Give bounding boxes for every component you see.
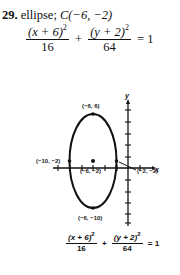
left-co-vertex-point xyxy=(68,159,72,163)
bottom-vertex-point xyxy=(91,206,95,210)
bottom-vertex-label: (−6, −10) xyxy=(78,215,102,221)
center-label-graph: (−6, −2) xyxy=(80,168,101,174)
right-co-vertex-label: (−2, −2) xyxy=(137,168,158,174)
y-axis-arrow-icon xyxy=(126,99,130,104)
x-term-numerator-bottom: (x + 6) xyxy=(68,233,91,242)
x-term-fraction-bottom: (x + 6)2 16 xyxy=(66,233,97,254)
y-term-denominator-bottom: 64 xyxy=(112,244,143,254)
top-vertex-label: (−6, 6) xyxy=(82,103,100,109)
x-term-denominator-bottom: 16 xyxy=(66,244,97,254)
top-vertex-point xyxy=(91,112,95,116)
plus-sign-bottom: + xyxy=(102,239,107,248)
center-point xyxy=(91,159,95,163)
right-co-vertex-point xyxy=(115,159,119,163)
y-term-numerator-bottom: (y + 2) xyxy=(114,233,137,242)
left-co-vertex-label: (−10, −2) xyxy=(36,158,60,164)
y-axis-label: y xyxy=(124,92,130,100)
y-term-fraction-bottom: (y + 2)2 64 xyxy=(112,233,143,254)
equals-one-bottom: = 1 xyxy=(148,239,159,248)
graph-equation: (x + 6)2 16 + (y + 2)2 64 = 1 xyxy=(66,233,162,254)
